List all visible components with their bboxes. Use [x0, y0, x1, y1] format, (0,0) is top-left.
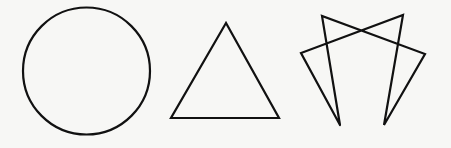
circle-shape: [23, 8, 150, 135]
shapes-figure: [0, 0, 451, 148]
open-star-shape: [301, 15, 425, 125]
triangle-shape: [171, 23, 279, 118]
